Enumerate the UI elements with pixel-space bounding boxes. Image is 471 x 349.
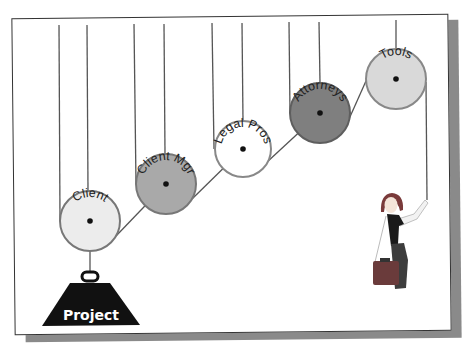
pulley-client-mgr: Client Mgr [134,149,198,214]
pulley-client: Client [60,186,120,251]
weight-label: Project [63,307,119,323]
pulley-tools: Tools [366,44,426,109]
pulley-diagram: Client Client Mgr Legal Pros Attorneys T… [0,0,471,349]
woman-figure-icon [373,193,428,289]
pulley-legal-pros: Legal Pros [211,116,275,177]
weight-icon: Project [42,272,140,326]
pulley-attorneys: Attorneys [289,78,350,143]
